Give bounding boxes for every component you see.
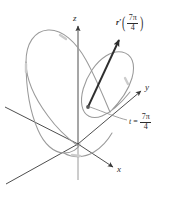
curve-lower-sweep: [64, 133, 112, 157]
equals-sign: =: [133, 118, 138, 126]
x-axis-negative: [5, 107, 78, 144]
figure-canvas: [0, 0, 176, 200]
space-curve-figure: z y x r ′ ( 7π 4 ) t = 7π 4: [0, 0, 176, 200]
parameter-fraction-7pi-over-4: 7π 4: [140, 113, 151, 131]
x-axis-positive: [78, 144, 113, 167]
tangent-vector-label: r ′ ( 7π 4 ): [116, 14, 144, 32]
parameter-fraction-numerator: 7π: [141, 113, 151, 122]
space-curve-group: [26, 30, 134, 157]
z-axis-label: z: [73, 14, 77, 23]
y-axis-label: y: [145, 83, 149, 92]
curve-left-loop-return: [26, 62, 80, 153]
y-axis-negative: [6, 144, 78, 184]
fraction-numerator: 7π: [128, 14, 138, 23]
fraction-denominator: 4: [130, 24, 136, 33]
parameter-value-label: t = 7π 4: [129, 113, 152, 131]
curve-mark-4: [72, 155, 80, 156]
axes-group: [5, 26, 141, 184]
curve-mark-3: [125, 78, 128, 84]
tangency-point: [86, 105, 90, 109]
x-axis-label: x: [117, 165, 121, 174]
fraction-7pi-over-4: 7π 4: [127, 14, 138, 32]
parameter-fraction-denominator: 4: [143, 123, 149, 132]
close-paren: ): [140, 17, 143, 30]
open-paren: (: [122, 17, 125, 30]
parameter-variable-t: t: [129, 118, 131, 126]
